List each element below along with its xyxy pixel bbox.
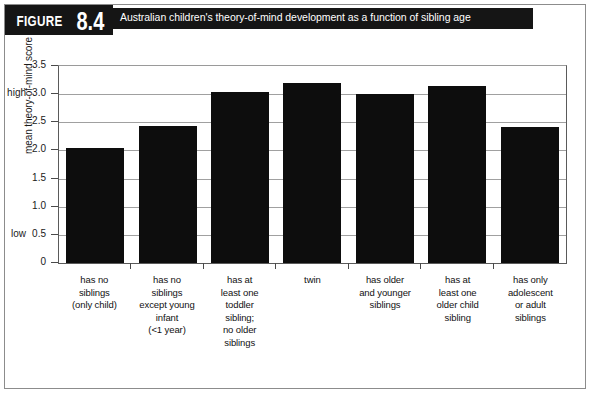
- x-axis-tick: [420, 263, 421, 269]
- x-axis-label-line: (<1 year): [134, 324, 201, 337]
- x-axis-label-line: twin: [279, 274, 346, 287]
- x-axis-label-line: siblings: [352, 299, 419, 312]
- x-axis-label-line: has older: [352, 274, 419, 287]
- bar-slot: [59, 66, 131, 263]
- x-axis-label-line: has at: [424, 274, 491, 287]
- y-axis-tick-label: 1.5: [20, 172, 46, 183]
- x-axis-label-line: siblings: [134, 287, 201, 300]
- y-axis-tick: [51, 65, 58, 66]
- x-axis-label-line: sibling;: [206, 312, 273, 325]
- bar-slot: [131, 66, 203, 263]
- x-axis-label-line: adolescent: [497, 287, 564, 300]
- x-axis-label-line: or adult: [497, 299, 564, 312]
- figure-title: Australian children's theory-of-mind dev…: [120, 11, 471, 23]
- x-axis-label-line: has only: [497, 274, 564, 287]
- x-axis-label-line: has no: [61, 274, 128, 287]
- x-axis-tick: [203, 263, 204, 269]
- figure-number: 8.4: [77, 9, 105, 34]
- bar-slot: [421, 66, 493, 263]
- y-axis-tick: [51, 149, 58, 150]
- x-axis-label-line: siblings: [206, 337, 273, 350]
- x-axis-label: has onlyadolescentor adultsiblings: [494, 274, 567, 350]
- figure-badge: FIGURE 8.4: [5, 5, 113, 35]
- x-axis-label-line: has no: [134, 274, 201, 287]
- y-axis-tick: [51, 206, 58, 207]
- bar: [283, 83, 341, 263]
- x-axis-label-line: except young: [134, 299, 201, 312]
- bar: [66, 148, 124, 263]
- x-axis-label-line: siblings: [497, 312, 564, 325]
- y-axis-tick: [51, 93, 58, 94]
- x-axis-labels: has nosiblings(only child)has nosiblings…: [58, 274, 567, 350]
- bar: [139, 126, 197, 263]
- y-axis-tick-label: 0: [20, 256, 46, 267]
- y-axis-tick-label: 1.0: [20, 200, 46, 211]
- y-axis-tick: [51, 234, 58, 235]
- bar-series: [59, 66, 566, 263]
- x-axis-label-line: least one: [206, 287, 273, 300]
- x-axis-ticks: [58, 263, 567, 270]
- x-axis-label: has nosiblingsexcept younginfant(<1 year…: [131, 274, 204, 350]
- y-axis-tick: [51, 121, 58, 122]
- y-axis-tick-label: 3.0: [20, 87, 46, 98]
- x-axis-label: has nosiblings(only child): [58, 274, 131, 350]
- x-axis-label-line: and younger: [352, 287, 419, 300]
- x-axis-label-line: no older: [206, 324, 273, 337]
- x-axis-label: has atleast oneolder childsibling: [421, 274, 494, 350]
- plot-area: [58, 65, 567, 264]
- bar: [211, 92, 269, 263]
- x-axis-label-line: infant: [134, 312, 201, 325]
- y-axis-tick: [51, 262, 58, 263]
- y-axis-tick-label: 3.5: [20, 59, 46, 70]
- x-axis-label: has olderand youngersiblings: [349, 274, 422, 350]
- x-axis-label-line: (only child): [61, 299, 128, 312]
- x-axis-label: twin: [276, 274, 349, 350]
- x-axis-tick: [130, 263, 131, 269]
- x-axis-label-line: siblings: [61, 287, 128, 300]
- x-axis-tick: [493, 263, 494, 269]
- bar: [356, 94, 414, 263]
- x-axis-label-line: least one: [424, 287, 491, 300]
- x-axis-tick: [275, 263, 276, 269]
- x-axis-label: has atleast onetoddlersibling;no oldersi…: [203, 274, 276, 350]
- bar-slot: [276, 66, 348, 263]
- x-axis-label-line: toddler: [206, 299, 273, 312]
- y-axis-tick-label: 2.5: [20, 115, 46, 126]
- bar-slot: [494, 66, 566, 263]
- x-axis-tick: [348, 263, 349, 269]
- bar-slot: [349, 66, 421, 263]
- y-axis-tick-label: 0.5: [20, 228, 46, 239]
- bar-slot: [204, 66, 276, 263]
- x-axis-label-line: older child: [424, 299, 491, 312]
- bar: [501, 127, 559, 263]
- y-axis-tick-label: 2.0: [20, 143, 46, 154]
- x-axis-label-line: has at: [206, 274, 273, 287]
- figure-container: FIGURE 8.4 Australian children's theory-…: [0, 0, 591, 394]
- y-axis-tick: [51, 178, 58, 179]
- bar: [428, 86, 486, 263]
- x-axis-label-line: sibling: [424, 312, 491, 325]
